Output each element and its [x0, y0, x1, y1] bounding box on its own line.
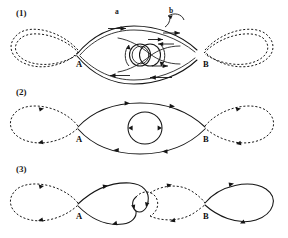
panel1-lower-tube-inner — [80, 56, 195, 80]
panel1-arrow-core-right — [158, 42, 174, 46]
figure-canvas — [0, 0, 288, 238]
panel3-solid-upper-arc — [78, 183, 148, 204]
panel1-arrow-core-top — [148, 38, 163, 42]
panel2-arrow-upper-left — [125, 101, 130, 105]
panel2-arrow-left-loop-bottom — [38, 140, 43, 144]
panel1-left-dashed-loop-inner — [15, 34, 79, 65]
panel3-arrow-left-loop-top — [39, 185, 44, 189]
panel2-arrow-ring-left — [128, 126, 132, 131]
panel1-core-circle-left-inner — [132, 46, 149, 64]
panel-3-label: (3) — [16, 164, 27, 174]
panel2-arrow-right-loop-top — [236, 107, 241, 111]
panel-1-segment-a-label: a — [115, 7, 119, 16]
panel-2-node-b-label: B — [203, 134, 209, 144]
panel-2-label: (2) — [16, 87, 27, 97]
panel2-lower-arc — [78, 129, 205, 154]
panel2-central-ring — [128, 112, 162, 144]
panel-2-graphics — [10, 101, 273, 154]
panel-1-segment-b-label: b — [169, 6, 173, 15]
panel3-arrow-dashed-upper — [167, 183, 172, 187]
panel1-label-b-stem — [165, 17, 170, 27]
panel2-arrow-left-loop-top — [39, 107, 44, 111]
panel-3-node-b-label: B — [203, 211, 209, 221]
panel-1-node-b-label: B — [203, 59, 209, 69]
panel2-arrow-right-loop-bottom — [236, 141, 241, 145]
panel2-arrow-ring-right — [158, 126, 162, 131]
panel3-arrow-left-loop-bottom — [38, 217, 43, 221]
panel3-right-solid-loop — [205, 184, 273, 222]
panel3-arrow-solid-upper — [103, 185, 108, 189]
panel1-right-dashed-loop-inner — [204, 34, 268, 65]
panel-2-node-a-label: A — [76, 134, 82, 144]
panel-1-node-a-label: A — [76, 59, 82, 69]
figure-root: (1) (2) (3) A B a b A B A B — [0, 0, 288, 238]
panel-3-node-a-label: A — [76, 211, 82, 221]
panel-1-label: (1) — [16, 8, 27, 18]
panel2-right-dashed-loop — [205, 106, 274, 143]
panel3-dashed-lower-arc — [150, 205, 205, 220]
panel3-dashed-upper-arc — [150, 186, 205, 203]
panel-3-graphics — [10, 183, 273, 226]
panel3-left-dashed-loop — [10, 184, 78, 221]
panel-1-graphics — [11, 14, 273, 84]
panel1-left-dashed-loop-outer — [11, 29, 78, 67]
panel2-upper-arc — [78, 103, 205, 127]
panel3-solid-lower-arc — [78, 206, 136, 224]
panel2-left-dashed-loop — [10, 106, 78, 143]
panel2-arrow-lower-right — [162, 149, 168, 153]
